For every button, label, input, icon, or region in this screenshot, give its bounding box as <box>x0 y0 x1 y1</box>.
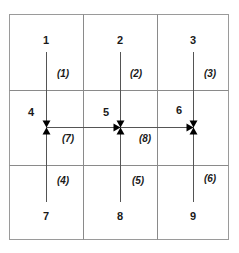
node-label-5: 5 <box>103 106 109 118</box>
edge-label-8: (8) <box>139 133 152 144</box>
edge-label-6: (6) <box>204 173 217 184</box>
edge-label-5: (5) <box>132 175 145 186</box>
node-label-1: 1 <box>43 34 49 46</box>
node-label-8: 8 <box>117 210 123 222</box>
flow-grid-diagram: 1 2 3 4 5 6 7 8 9 (1) (2) (3) (4) (5) (6… <box>0 0 239 253</box>
edge-label-7: (7) <box>62 133 75 144</box>
node-label-3: 3 <box>190 34 196 46</box>
edge-label-3: (3) <box>204 68 217 79</box>
node-label-4: 4 <box>28 106 35 118</box>
edge-label-2: (2) <box>130 68 143 79</box>
edge-label-4: (4) <box>57 175 70 186</box>
node-label-2: 2 <box>117 34 123 46</box>
node-label-6: 6 <box>176 104 182 116</box>
node-label-9: 9 <box>190 210 196 222</box>
node-label-7: 7 <box>43 210 49 222</box>
edge-label-1: (1) <box>57 68 70 79</box>
